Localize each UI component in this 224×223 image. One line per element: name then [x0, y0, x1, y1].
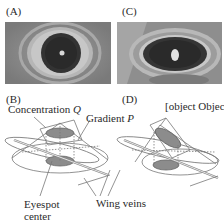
label-gradient-q: [object Object] [165, 101, 224, 112]
diagram-d [108, 118, 221, 196]
label-concentration-q: Concentration Q [8, 104, 81, 115]
label-eyespot-center: Eyespot center [24, 198, 59, 222]
label-wing-veins: Wing veins [96, 198, 146, 209]
label-gradient-p: Gradient P [86, 113, 134, 124]
diagram-b [3, 117, 110, 196]
